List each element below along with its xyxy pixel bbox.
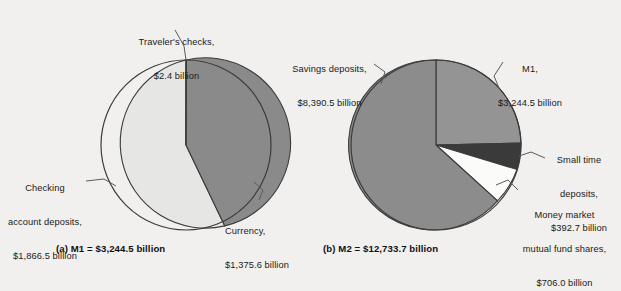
label-checking-line1: Checking [2,183,88,194]
label-checking-line2: account deposits, [2,217,88,228]
label-money-market-line1: Money market [508,210,621,221]
label-checking-account-deposits: Checking account deposits, $1,866.5 bill… [2,160,88,285]
label-money-market-line2: mutual fund shares, [508,244,621,255]
caption-m1: (a) M1 = $3,244.5 billion [56,243,165,254]
label-small-time-line1: Small time [537,155,621,166]
label-travelers-checks-line2: $2.4 billion [104,71,249,82]
label-m1-line2: $3,244.5 billion [480,98,580,109]
label-savings-line1: Savings deposits, [277,64,382,75]
label-currency: Currency, $1,375.6 billion [225,203,335,291]
label-travelers-checks-line1: Traveler's checks, [104,37,249,48]
label-travelers-checks: Traveler's checks, $2.4 billion [104,14,249,105]
label-savings-deposits: Savings deposits, $8,390.5 billion [277,41,382,132]
label-currency-line1: Currency, [225,226,335,237]
label-currency-line2: $1,375.6 billion [225,260,335,271]
label-m1: M1, $3,244.5 billion [480,41,580,132]
label-money-market-line3: $706.0 billion [508,278,621,289]
label-money-market-mutual-fund-shares: Money market mutual fund shares, $706.0 … [508,187,621,291]
caption-m2: (b) M2 = $12,733.7 billion [323,243,438,254]
label-m1-line1: M1, [480,64,580,75]
label-savings-line2: $8,390.5 billion [277,98,382,109]
